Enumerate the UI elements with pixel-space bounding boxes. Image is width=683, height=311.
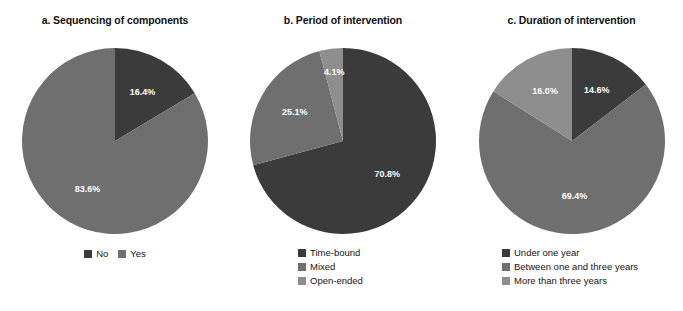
legend-label: Open-ended	[310, 275, 363, 286]
legend-label: More than three years	[514, 275, 607, 286]
legend-swatch-icon	[502, 263, 510, 271]
legend-label: Time-bound	[310, 247, 360, 258]
legend-swatch-icon	[298, 263, 306, 271]
pie-slice-label-b-0: 70.8%	[375, 169, 401, 179]
legend-item-b-2[interactable]: Open-ended	[298, 275, 363, 286]
pie-slice-label-a-0: 16.4%	[130, 87, 156, 97]
legend-item-b-0[interactable]: Time-bound	[298, 247, 360, 258]
chart-panel-a: a. Sequencing of components 16.4%83.6% N…	[0, 0, 230, 311]
pie-slice-label-b-1: 25.1%	[282, 107, 308, 117]
legend-swatch-icon	[84, 250, 92, 258]
pie-slice-label-a-1: 83.6%	[75, 184, 101, 194]
legend-label: Under one year	[514, 247, 579, 258]
pie-svg-a: 16.4%83.6%	[20, 47, 210, 235]
pie-chart-figure: a. Sequencing of components 16.4%83.6% N…	[0, 0, 683, 311]
legend-swatch-icon	[298, 249, 306, 257]
pie-svg-c: 14.6%69.4%16.0%	[477, 47, 667, 235]
legend-swatch-icon	[298, 277, 306, 285]
chart-panel-b: b. Period of intervention 70.8%25.1%4.1%…	[228, 0, 458, 311]
legend-item-c-1[interactable]: Between one and three years	[502, 261, 638, 272]
legend-a: NoYes	[0, 248, 230, 259]
legend-c: Under one yearBetween one and three year…	[460, 247, 683, 289]
chart-panel-c: c. Duration of intervention 14.6%69.4%16…	[460, 0, 683, 311]
pie-chart-a: 16.4%83.6%	[0, 47, 230, 235]
pie-slice-label-b-2: 4.1%	[324, 67, 345, 77]
legend-item-c-2[interactable]: More than three years	[502, 275, 607, 286]
legend-swatch-icon	[118, 250, 126, 258]
pie-chart-b: 70.8%25.1%4.1%	[228, 47, 458, 235]
chart-title-b: b. Period of intervention	[228, 14, 458, 26]
legend-label: No	[96, 248, 108, 259]
chart-title-c: c. Duration of intervention	[460, 14, 683, 26]
legend-label: Yes	[130, 248, 146, 259]
legend-label: Between one and three years	[514, 261, 638, 272]
legend-label: Mixed	[310, 261, 335, 272]
pie-slice-label-c-2: 16.0%	[532, 86, 558, 96]
legend-item-a-0[interactable]: No	[84, 248, 108, 259]
legend-item-b-1[interactable]: Mixed	[298, 261, 335, 272]
chart-title-a: a. Sequencing of components	[0, 14, 230, 26]
legend-item-a-1[interactable]: Yes	[118, 248, 146, 259]
legend-item-c-0[interactable]: Under one year	[502, 247, 579, 258]
pie-svg-b: 70.8%25.1%4.1%	[248, 47, 438, 235]
pie-slice-label-c-0: 14.6%	[583, 85, 609, 95]
legend-swatch-icon	[502, 277, 510, 285]
legend-swatch-icon	[502, 249, 510, 257]
pie-slice-label-c-1: 69.4%	[561, 191, 587, 201]
pie-chart-c: 14.6%69.4%16.0%	[460, 47, 683, 235]
